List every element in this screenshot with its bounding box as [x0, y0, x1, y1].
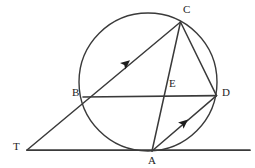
- chord-BD: [83, 96, 217, 97]
- circle: [79, 13, 217, 151]
- vertex-label-C: C: [183, 4, 190, 15]
- geometry-figure: T B C D E A: [0, 0, 255, 168]
- vertex-label-A: A: [148, 155, 156, 166]
- vertex-label-T: T: [13, 141, 20, 152]
- vertex-label-D: D: [222, 87, 230, 98]
- geometry-canvas: [0, 0, 255, 168]
- secant-line-TBC: [27, 22, 181, 150]
- chord-CD: [181, 22, 217, 96]
- vertex-label-B: B: [72, 87, 79, 98]
- vertex-label-E: E: [169, 78, 176, 89]
